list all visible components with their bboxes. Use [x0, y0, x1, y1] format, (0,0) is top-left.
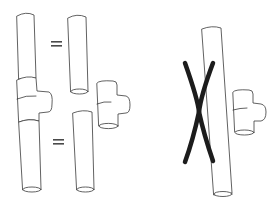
loose-tee-fitting	[233, 90, 266, 135]
wrong-assembly	[185, 27, 266, 197]
assembly-bottom-pipe	[19, 120, 41, 192]
assembly-top-pipe	[17, 13, 36, 79]
equals-sign-top	[51, 41, 62, 47]
assembly-tee-fitting	[17, 77, 52, 122]
pipe-diagram	[0, 0, 279, 207]
long-pipe	[202, 27, 232, 197]
separate-tee-fitting	[97, 81, 130, 129]
separate-top-pipe	[68, 15, 88, 94]
left-assembly	[17, 13, 52, 192]
separate-bottom-pipe	[73, 111, 94, 192]
equals-sign-bottom	[53, 139, 64, 145]
